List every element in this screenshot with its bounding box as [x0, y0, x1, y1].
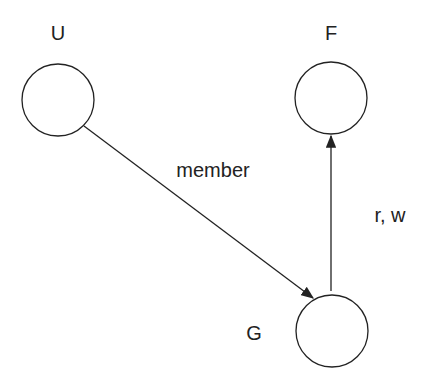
edge-label-rw: r, w: [374, 205, 405, 225]
node-u: [22, 64, 94, 136]
diagram-canvas: [0, 0, 431, 385]
node-g: [296, 295, 368, 367]
node-f: [295, 62, 367, 134]
edge-label-member: member: [176, 160, 249, 180]
edge-member-arrow: [84, 126, 313, 298]
node-label-f: F: [325, 23, 337, 43]
node-label-g: G: [246, 323, 262, 343]
node-label-u: U: [51, 23, 65, 43]
